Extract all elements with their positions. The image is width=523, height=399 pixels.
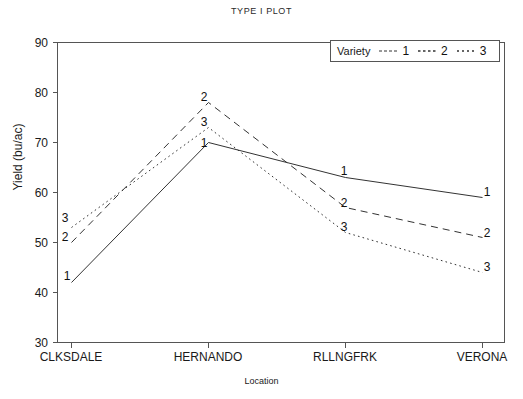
x-tick-label-hernando: HERNANDO — [138, 350, 278, 364]
chart-container: TYPE I PLOT 90 80 70 60 50 — [0, 0, 523, 399]
point-label-s1-clksdale: 1 — [60, 269, 74, 283]
y-tick-label-30: 30 — [14, 336, 48, 350]
point-label-s3-verona: 3 — [480, 260, 494, 274]
point-label-s3-clksdale: 3 — [58, 211, 72, 225]
solid-line-sample — [379, 46, 399, 56]
point-label-s2-verona: 2 — [480, 226, 494, 240]
legend-key-3: 3 — [480, 44, 487, 58]
plot-frame — [58, 43, 505, 343]
point-label-s1-rllngfrk: 1 — [337, 164, 351, 178]
legend-key-1: 1 — [402, 44, 409, 58]
series-line-3 — [72, 128, 483, 273]
y-tick-label-40: 40 — [14, 286, 48, 300]
x-tick-label-clksdale: CLKSDALE — [1, 350, 141, 364]
point-label-s3-rllngfrk: 3 — [337, 220, 351, 234]
point-label-s1-verona: 1 — [480, 185, 494, 199]
y-axis-title: Yield (bu/ac) — [11, 102, 25, 212]
legend-key-2: 2 — [441, 44, 448, 58]
series-line-1 — [72, 143, 483, 283]
series-line-2 — [72, 103, 483, 243]
legend-entry-1: 1 — [379, 44, 409, 58]
point-label-s1-hernando: 1 — [197, 136, 211, 150]
x-tick-label-verona: VERONA — [412, 350, 523, 364]
x-axis-ticks — [72, 343, 483, 349]
legend-title: Variety — [337, 45, 370, 57]
x-axis-title: Location — [0, 376, 523, 386]
legend: Variety 1 2 3 — [330, 40, 500, 62]
x-tick-label-rllngfrk: RLLNGFRK — [275, 350, 415, 364]
point-label-s2-hernando: 2 — [197, 90, 211, 104]
point-label-s2-rllngfrk: 2 — [337, 196, 351, 210]
point-label-s3-hernando: 3 — [197, 115, 211, 129]
y-tick-label-50: 50 — [14, 236, 48, 250]
legend-entry-2: 2 — [418, 44, 448, 58]
dashed-line-sample — [418, 46, 438, 56]
legend-entry-3: 3 — [457, 44, 487, 58]
y-tick-label-90: 90 — [14, 36, 48, 50]
y-tick-label-80: 80 — [14, 86, 48, 100]
dotted-line-sample — [457, 46, 477, 56]
y-axis-ticks — [53, 43, 58, 343]
point-label-s2-clksdale: 2 — [58, 230, 72, 244]
